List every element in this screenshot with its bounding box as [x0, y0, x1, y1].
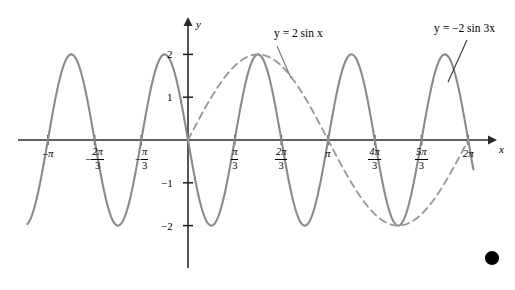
x-tick-label-8: 2π — [463, 147, 474, 159]
tick-fraction: 5π3 — [415, 147, 428, 171]
y-axis-label: y — [196, 18, 201, 30]
y-axis-arrow — [184, 17, 193, 26]
coordinate-plot — [0, 0, 515, 290]
y-tick-label-neg1: −1 — [161, 177, 173, 189]
tick-fraction: 2π3 — [275, 147, 288, 171]
y-tick-label-2: 2 — [167, 48, 173, 60]
tick-fraction: π3 — [141, 147, 148, 171]
annotation-solid-function: y = −2 sin 3x — [434, 22, 495, 34]
bullet-marker — [485, 251, 499, 265]
x-tick-label-2: −π3 — [135, 147, 148, 171]
tick-fraction: π3 — [231, 147, 238, 171]
x-tick-label-5: π — [325, 147, 331, 159]
annotation-dashed-function: y = 2 sin x — [274, 27, 323, 39]
tick-value: π — [325, 147, 331, 159]
graph-figure: y x 2 1 −1 −2 −π−2π3−π3π32π3π4π35π32π y … — [0, 0, 515, 290]
tick-value: 2π — [463, 147, 474, 159]
tick-fraction: 2π3 — [91, 147, 104, 171]
x-tick-label-0: −π — [42, 147, 54, 160]
x-tick-label-3: π3 — [231, 147, 238, 171]
x-tick-label-6: 4π3 — [368, 147, 381, 171]
leader-line-dashed — [277, 46, 291, 78]
y-tick-label-1: 1 — [167, 91, 173, 103]
x-axis-arrow — [488, 136, 497, 145]
x-tick-label-4: 2π3 — [275, 147, 288, 171]
x-tick-label-7: 5π3 — [415, 147, 428, 171]
tick-value: π — [48, 147, 54, 159]
x-tick-label-1: −2π3 — [85, 147, 104, 171]
tick-fraction: 4π3 — [368, 147, 381, 171]
y-tick-label-neg2: −2 — [161, 220, 173, 232]
x-axis-label: x — [499, 143, 504, 155]
